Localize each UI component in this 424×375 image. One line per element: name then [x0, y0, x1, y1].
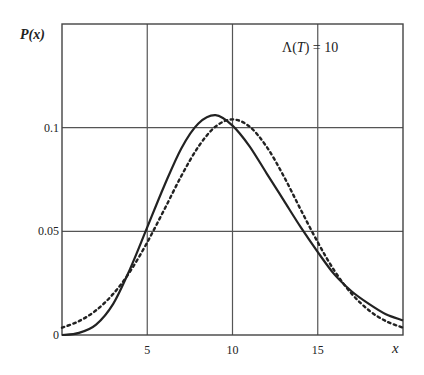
y-tick-label: 0.1 — [44, 121, 59, 135]
y-axis-label: P(x) — [20, 27, 45, 43]
x-axis-label: x — [391, 340, 399, 356]
probability-chart: 5101500.050.1 P(x) x Λ(T) = 10 — [0, 0, 424, 375]
lambda-annotation: Λ(T) = 10 — [282, 40, 338, 56]
x-tick-label: 10 — [227, 343, 239, 357]
annotation-rest: ) = 10 — [305, 40, 339, 56]
y-tick-label: 0 — [53, 328, 59, 342]
x-tick-label: 5 — [144, 343, 150, 357]
grid — [62, 24, 403, 335]
annotation-lambda: Λ( — [282, 40, 297, 56]
x-tick-label: 15 — [312, 343, 324, 357]
y-tick-label: 0.05 — [38, 224, 59, 238]
tick-labels: 5101500.050.1 — [38, 121, 324, 357]
